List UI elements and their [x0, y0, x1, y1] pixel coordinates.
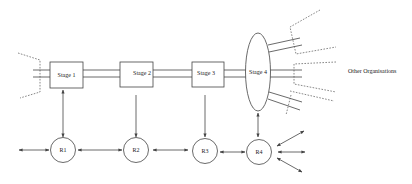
r3-label: R3	[201, 148, 208, 154]
stage-2-node[interactable]: Stage 2	[120, 62, 153, 87]
r4-label: R4	[255, 149, 262, 155]
stage-1-node[interactable]: Stage 1	[50, 62, 83, 88]
other-organisations-label: Other Organisations	[348, 68, 397, 74]
resource-r2-node[interactable]: R2	[124, 138, 149, 163]
r1-label: R1	[59, 147, 66, 153]
stage-2-label: Stage 2	[133, 70, 151, 76]
stage4-external-links	[268, 10, 336, 115]
resource-r1-node[interactable]: R1	[51, 138, 76, 163]
organisation-stage-diagram: Stage 1 Stage 2 Stage 3 Stage 4 Other Or…	[0, 0, 412, 184]
resource-r4-node[interactable]: R4	[247, 140, 272, 165]
stage-resource-arrows	[63, 90, 258, 137]
resource-r3-node[interactable]: R3	[193, 139, 218, 164]
stage-1-label: Stage 1	[58, 72, 76, 78]
left-external-boundary	[18, 53, 50, 98]
r2-label: R2	[132, 147, 139, 153]
stage-4-label: Stage 4	[249, 69, 267, 75]
stage-3-node[interactable]: Stage 3	[192, 62, 224, 87]
stage-3-label: Stage 3	[197, 70, 215, 76]
stage-4-node[interactable]: Stage 4	[246, 33, 271, 111]
